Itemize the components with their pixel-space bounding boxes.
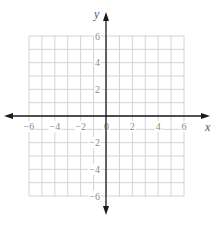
x-axis-left-arrow-icon [4, 113, 13, 119]
y-axis-up-arrow-icon [103, 12, 109, 21]
x-tick-label: 2 [130, 121, 135, 132]
x-axis-label: x [204, 120, 211, 134]
y-tick-label: 4 [95, 57, 100, 68]
x-tick-label: −6 [24, 121, 35, 132]
y-axis-label: y [93, 7, 100, 21]
y-tick-label: −2 [89, 137, 100, 148]
y-tick-label: 6 [95, 31, 100, 42]
x-tick-label: −4 [50, 121, 61, 132]
x-tick-label: −2 [75, 121, 86, 132]
y-tick-label: 2 [95, 84, 100, 95]
y-tick-label: −4 [89, 164, 100, 175]
x-tick-label: 4 [156, 121, 161, 132]
y-tick-label: −6 [89, 191, 100, 202]
x-tick-label: 6 [182, 121, 187, 132]
coordinate-plane: −6−4−20246−6−4−2246 x y [0, 0, 223, 227]
y-axis-down-arrow-icon [103, 206, 109, 215]
x-axis-right-arrow-icon [201, 113, 210, 119]
